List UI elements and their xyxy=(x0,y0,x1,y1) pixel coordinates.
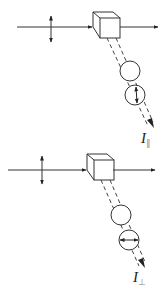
sample-cube xyxy=(93,12,120,38)
panel-perpendicular xyxy=(8,154,155,268)
sample-cube xyxy=(87,154,114,180)
panel-parallel xyxy=(17,12,158,128)
analyzer-icon xyxy=(125,85,145,105)
scattered-beam xyxy=(107,38,153,126)
label-subscript: ∥ xyxy=(146,138,151,148)
lens-icon xyxy=(120,61,140,81)
scattered-arrowhead xyxy=(147,118,154,128)
label-intensity-perpendicular: I⊥ xyxy=(133,270,146,287)
label-intensity-parallel: I∥ xyxy=(141,131,151,148)
label-subscript: ⊥ xyxy=(138,277,146,287)
lens-icon xyxy=(111,205,131,225)
